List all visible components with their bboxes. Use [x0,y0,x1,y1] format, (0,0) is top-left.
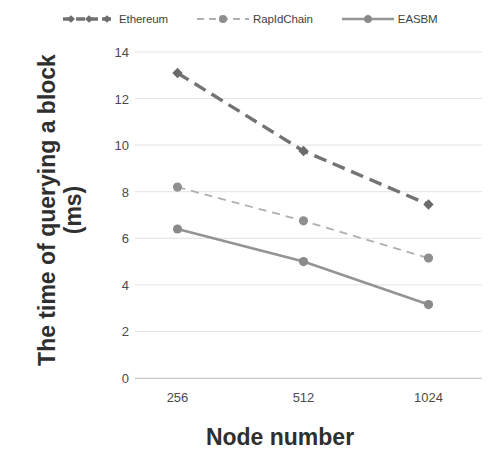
x-axis-title: Node number [110,424,450,451]
series-ethereum [172,68,433,210]
y-tick-label: 10 [95,138,129,153]
y-tick-label: 12 [95,91,129,106]
y-tick-label: 14 [95,45,129,60]
data-point-marker [423,199,433,209]
data-point-marker [424,300,433,309]
series-rapidchain [173,183,433,263]
chart-figure: Ethereum RapIdChain EASBM [0,0,488,465]
y-tick-label: 8 [95,184,129,199]
x-tick-label: 1024 [394,390,464,405]
y-tick-label: 6 [95,231,129,246]
y-tick-label: 0 [95,371,129,386]
series-line [178,229,429,305]
data-point-marker [173,183,182,192]
y-tick-label: 2 [95,324,129,339]
data-point-marker [299,257,308,266]
series-layer [172,68,433,309]
x-tick-label: 512 [269,390,339,405]
data-point-marker [424,254,433,263]
y-tick-label: 4 [95,277,129,292]
series-line [178,73,429,205]
x-tick-label: 256 [143,390,213,405]
data-point-marker [299,216,308,225]
gridlines [135,52,482,378]
series-easbm [173,224,433,309]
data-point-marker [173,224,182,233]
